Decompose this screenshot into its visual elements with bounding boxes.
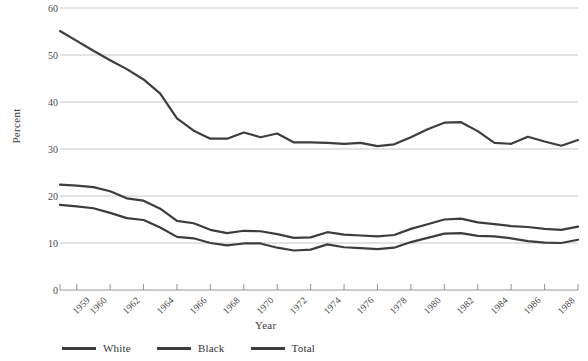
- legend-item-total[interactable]: Total: [251, 342, 315, 354]
- x-tick-label: 1976: [355, 295, 376, 316]
- x-tick-label: 1964: [154, 295, 175, 316]
- legend-label: Total: [292, 342, 315, 354]
- x-tick-label: 1959: [71, 295, 92, 316]
- legend-label: White: [103, 342, 131, 354]
- x-tick-label: 1974: [321, 295, 342, 316]
- chart-legend: WhiteBlackTotal: [0, 338, 362, 358]
- legend-swatch-icon: [251, 347, 285, 350]
- x-tick-label: 1988: [555, 295, 576, 316]
- legend-swatch-icon: [62, 347, 96, 350]
- legend-label: Black: [198, 342, 225, 354]
- x-tick-label: 1982: [455, 295, 476, 316]
- x-tick-label: 1962: [121, 295, 142, 316]
- x-tick-label: 1972: [288, 295, 309, 316]
- x-tick-label: 1960: [88, 295, 109, 316]
- legend-item-black[interactable]: Black: [157, 342, 225, 354]
- x-tick-label: 1980: [422, 295, 443, 316]
- x-tick-label: 1968: [221, 295, 242, 316]
- legend-item-white[interactable]: White: [62, 342, 131, 354]
- x-axis-ticks: 1959196019621964196619681970197219741976…: [0, 0, 588, 361]
- x-tick-label: 1978: [388, 295, 409, 316]
- legend-swatch-icon: [157, 347, 191, 350]
- x-tick-label: 1986: [522, 295, 543, 316]
- x-tick-label: 1966: [188, 295, 209, 316]
- x-tick-label: 1984: [489, 295, 510, 316]
- line-chart: Percent Year 0102030405060 1959196019621…: [0, 0, 588, 361]
- x-tick-label: 1970: [255, 295, 276, 316]
